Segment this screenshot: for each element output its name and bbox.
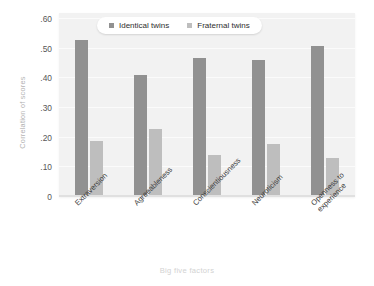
bar bbox=[134, 75, 147, 197]
bar bbox=[311, 46, 324, 197]
y-tick-label: .50 bbox=[12, 44, 52, 54]
y-tick-label: .60 bbox=[12, 14, 52, 24]
legend-label: Fraternal twins bbox=[197, 21, 249, 30]
legend-entry[interactable]: Identical twins bbox=[109, 21, 169, 30]
legend-swatch-icon bbox=[109, 23, 114, 28]
y-tick-label: .10 bbox=[12, 162, 52, 172]
y-tick-label: .20 bbox=[12, 133, 52, 143]
y-tick-label: .30 bbox=[12, 103, 52, 113]
bar-chart-figure: Correlation of scores Big five factors 0… bbox=[0, 0, 374, 286]
y-tick-label: .40 bbox=[12, 73, 52, 83]
y-tick-label: 0 bbox=[12, 192, 52, 202]
legend-swatch-icon bbox=[187, 23, 192, 28]
bar bbox=[193, 58, 206, 197]
x-axis-title: Big five factors bbox=[0, 266, 374, 275]
bar bbox=[252, 60, 265, 197]
legend-label: Identical twins bbox=[119, 21, 169, 30]
plot-area bbox=[59, 13, 355, 197]
chart-legend: Identical twinsFraternal twins bbox=[97, 17, 262, 34]
bar bbox=[75, 40, 88, 197]
legend-entry[interactable]: Fraternal twins bbox=[187, 21, 249, 30]
